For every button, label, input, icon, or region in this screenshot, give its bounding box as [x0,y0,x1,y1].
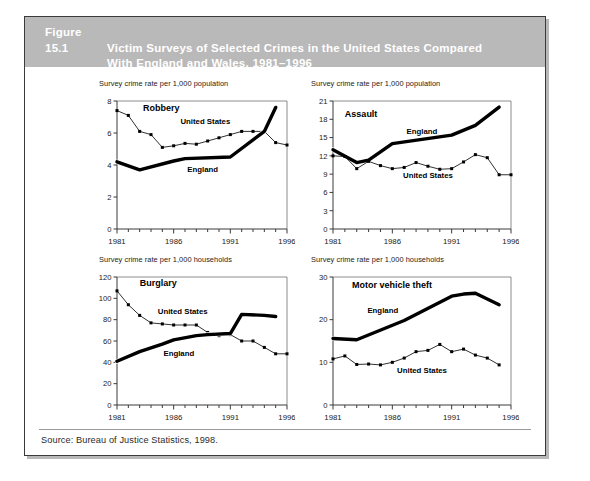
figure-container: Figure 15.1Victim Surveys of Selected Cr… [24,16,546,456]
svg-text:80: 80 [103,315,111,324]
svg-text:4: 4 [107,161,111,170]
svg-text:1996: 1996 [278,413,295,422]
svg-text:1981: 1981 [324,413,341,422]
svg-text:10: 10 [319,358,327,367]
svg-text:1996: 1996 [278,237,295,246]
svg-text:1981: 1981 [108,413,125,422]
svg-text:England: England [367,306,398,315]
svg-text:18: 18 [319,115,327,124]
y-axis-caption-assault: Survey crime rate per 1,000 population [311,79,440,88]
svg-text:8: 8 [107,97,111,106]
y-axis-caption-burglary: Survey crime rate per 1,000 households [99,255,232,264]
svg-text:England: England [187,165,218,174]
svg-text:0: 0 [107,225,111,234]
svg-text:Robbery: Robbery [143,103,180,113]
svg-text:1991: 1991 [443,237,460,246]
svg-text:3: 3 [323,207,327,216]
chart-panel-robbery: Survey crime rate per 1,000 population 0… [87,79,295,257]
svg-text:1991: 1991 [222,237,239,246]
chart-panel-burglary: Survey crime rate per 1,000 households 0… [87,255,295,433]
svg-text:0: 0 [323,225,327,234]
figure-title-bar: Figure 15.1Victim Surveys of Selected Cr… [25,17,545,67]
svg-text:1981: 1981 [324,237,341,246]
svg-text:1986: 1986 [165,413,182,422]
svg-text:20: 20 [319,315,327,324]
chart-svg-robbery: 024681981198619911996RobberyUnited State… [87,93,295,255]
figure-number: Figure 15.1 [45,25,107,56]
figure-title-line1: Victim Surveys of Selected Crimes in the… [107,42,482,54]
chart-panel-assault: Survey crime rate per 1,000 population 0… [303,79,519,257]
svg-text:2: 2 [107,193,111,202]
svg-text:12: 12 [319,152,327,161]
svg-text:1991: 1991 [222,413,239,422]
figure-title: Figure 15.1Victim Surveys of Selected Cr… [45,25,533,72]
svg-text:30: 30 [319,273,327,282]
svg-text:United States: United States [403,171,453,180]
svg-text:6: 6 [107,129,111,138]
svg-text:60: 60 [103,337,111,346]
svg-text:0: 0 [107,401,111,410]
svg-text:1996: 1996 [502,413,519,422]
svg-text:9: 9 [323,170,327,179]
plot-area-robbery: 024681981198619911996RobberyUnited State… [87,93,295,255]
source-divider [39,429,531,430]
svg-text:1996: 1996 [502,237,519,246]
svg-text:120: 120 [99,273,112,282]
svg-text:1981: 1981 [108,237,125,246]
svg-text:United States: United States [397,366,447,375]
plot-area-burglary: 0204060801001201981198619911996BurglaryU… [87,269,295,431]
chart-svg-assault: 0369121518211981198619911996AssaultEngla… [303,93,519,255]
svg-text:20: 20 [103,379,111,388]
svg-text:100: 100 [99,294,112,303]
svg-text:United States: United States [158,307,208,316]
chart-svg-burglary: 0204060801001201981198619911996BurglaryU… [87,269,295,431]
svg-text:0: 0 [323,401,327,410]
y-axis-caption-motor-vehicle-theft: Survey crime rate per 1,000 households [311,255,444,264]
svg-text:England: England [163,349,194,358]
source-note: Source: Bureau of Justice Statistics, 19… [41,435,218,445]
plot-area-motor-vehicle-theft: 01020301981198619911996Motor vehicle the… [303,269,519,431]
plot-area-assault: 0369121518211981198619911996AssaultEngla… [303,93,519,255]
figure-title-line2: With England and Wales, 1981–1996 [107,57,312,69]
svg-text:1986: 1986 [384,237,401,246]
svg-text:England: England [407,127,438,136]
svg-text:Assault: Assault [345,109,378,119]
svg-text:1986: 1986 [165,237,182,246]
chart-svg-motor-vehicle-theft: 01020301981198619911996Motor vehicle the… [303,269,519,431]
svg-text:Burglary: Burglary [140,278,177,288]
svg-text:Motor vehicle theft: Motor vehicle theft [352,280,432,290]
chart-panel-motor-vehicle-theft: Survey crime rate per 1,000 households 0… [303,255,519,433]
svg-text:6: 6 [323,188,327,197]
svg-text:15: 15 [319,133,327,142]
svg-text:United States: United States [180,117,230,126]
svg-text:1991: 1991 [443,413,460,422]
svg-text:40: 40 [103,358,111,367]
y-axis-caption-robbery: Survey crime rate per 1,000 population [99,79,228,88]
svg-text:21: 21 [319,97,327,106]
svg-text:1986: 1986 [384,413,401,422]
